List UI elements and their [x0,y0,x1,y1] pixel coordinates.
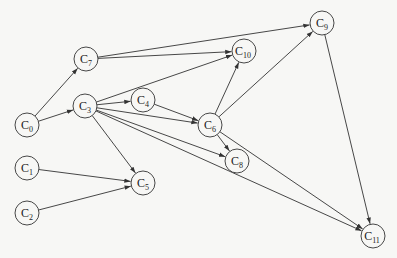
node-c10: C10 [232,39,256,63]
edge-c9-c11 [325,35,370,224]
node-c11: C11 [361,224,385,248]
edge-c7-c9 [98,25,310,57]
node-c9: C9 [310,11,334,35]
edge-c6-c10 [215,62,239,114]
node-c4: C4 [131,88,155,112]
edge-c3-c4 [97,101,131,104]
node-c7: C7 [74,47,98,71]
edge-c4-c6 [154,104,198,120]
edge-c6-c11 [220,132,363,229]
edge-c3-c5 [92,116,135,173]
node-c8: C8 [225,149,249,173]
node-c2: C2 [15,201,39,225]
edge-c1-c5 [39,170,131,182]
node-c3: C3 [73,94,97,118]
edge-c3-c11 [96,111,362,231]
edge-c3-c10 [96,55,232,102]
node-c0: C0 [15,113,39,137]
edge-c2-c5 [39,186,131,210]
directed-graph: C0C1C2C3C4C5C6C7C8C9C10C11 [0,0,397,258]
node-c5: C5 [131,171,155,195]
nodes: C0C1C2C3C4C5C6C7C8C9C10C11 [15,11,385,248]
node-c1: C1 [15,156,39,180]
node-c6: C6 [198,113,222,137]
edge-c7-c10 [98,52,232,59]
edge-c0-c7 [35,68,78,116]
edge-c0-c3 [38,110,73,121]
